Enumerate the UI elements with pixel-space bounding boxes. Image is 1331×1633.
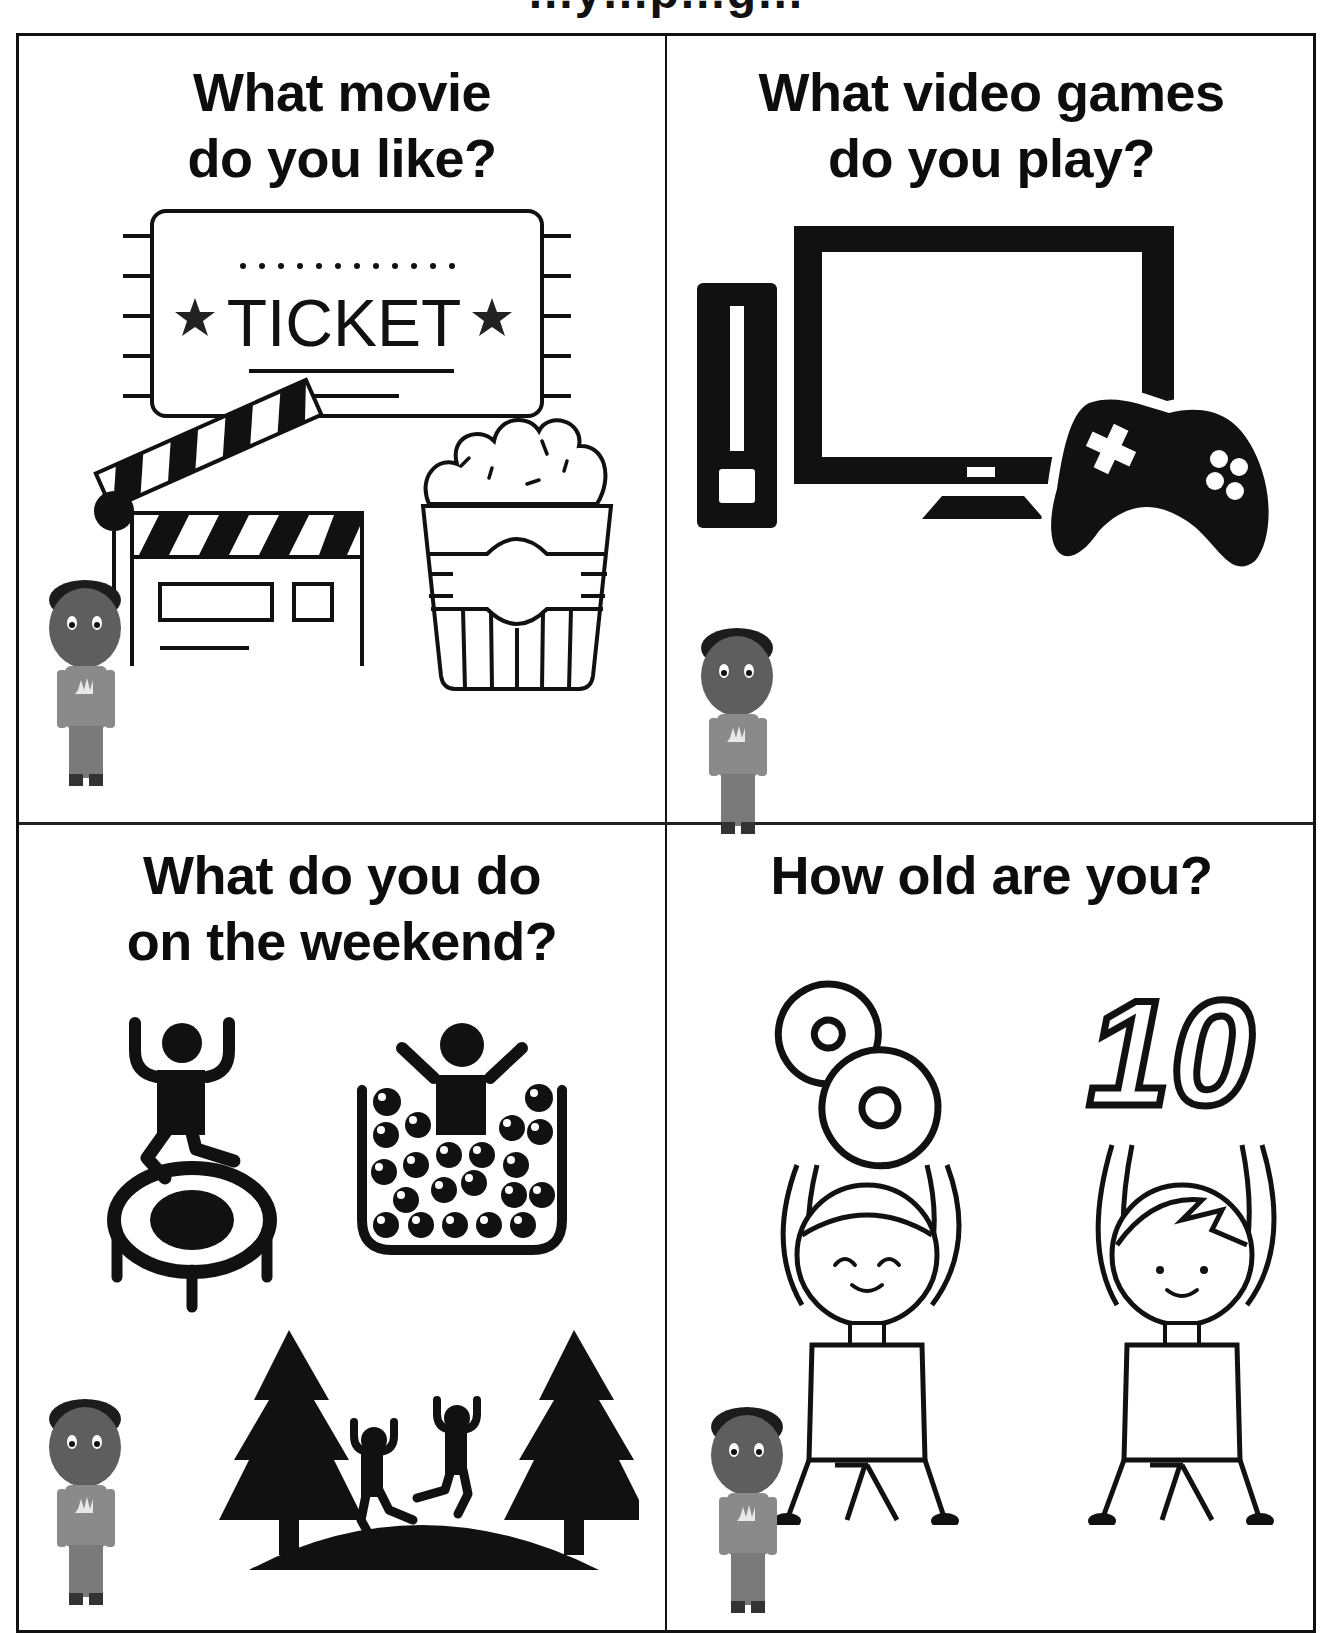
trampoline-icon	[97, 1015, 277, 1315]
boy-holding-number-icon: 10	[1062, 965, 1302, 1525]
card-age: How old are you? 10	[667, 825, 1316, 1625]
question-card-grid: What movie do you like? TICKET	[16, 33, 1316, 1633]
card-title-line2: do you like?	[19, 126, 665, 190]
gamepad-icon	[1017, 371, 1297, 586]
boy-avatar	[45, 578, 125, 788]
game-console-icon	[695, 281, 780, 531]
card-video-games: What video games do you play?	[667, 36, 1316, 822]
card-title-line1: What movie	[19, 60, 665, 124]
page-title-fragment: …y…p…g…	[0, 0, 1331, 22]
age-number-10: 10	[1087, 969, 1254, 1137]
clapperboard-icon	[89, 366, 379, 666]
card-title-line2: on the weekend?	[19, 909, 665, 973]
card-title-line1: How old are you?	[667, 843, 1316, 907]
boy-avatar	[697, 626, 777, 836]
card-title-line1: What video games	[667, 60, 1316, 124]
ticket-label: TICKET	[227, 286, 462, 360]
boy-avatar	[45, 1397, 125, 1607]
card-title-line1: What do you do	[19, 843, 665, 907]
card-title-line2: do you play?	[667, 126, 1316, 190]
park-trees-icon	[219, 1330, 639, 1570]
boy-avatar	[707, 1405, 787, 1615]
card-movie: What movie do you like? TICKET	[19, 36, 665, 822]
ball-pit-icon	[354, 1020, 574, 1260]
popcorn-icon	[419, 406, 619, 696]
card-weekend: What do you do on the weekend?	[19, 825, 665, 1625]
